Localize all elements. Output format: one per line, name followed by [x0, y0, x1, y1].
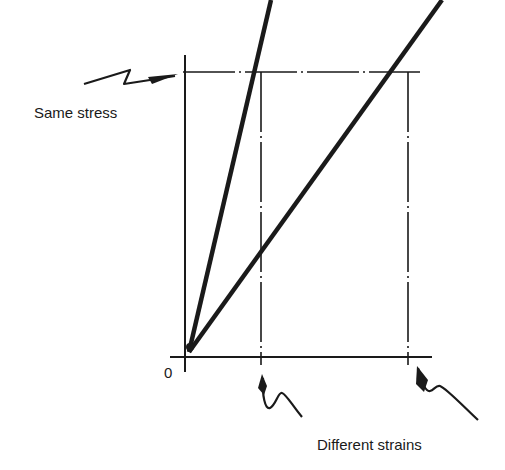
- strains-label: Different strains: [317, 436, 422, 453]
- origin-point: [186, 343, 194, 351]
- stress-strain-diagram: [0, 0, 505, 470]
- stress-arrow-icon: [84, 70, 178, 84]
- flexible-material-line: [189, 0, 442, 352]
- strain-arrow-2-icon: [416, 366, 478, 420]
- origin-label: 0: [164, 364, 172, 381]
- stress-label: Same stress: [34, 104, 117, 121]
- stiff-material-line: [189, 0, 271, 352]
- strain-arrow-1-icon: [258, 374, 302, 417]
